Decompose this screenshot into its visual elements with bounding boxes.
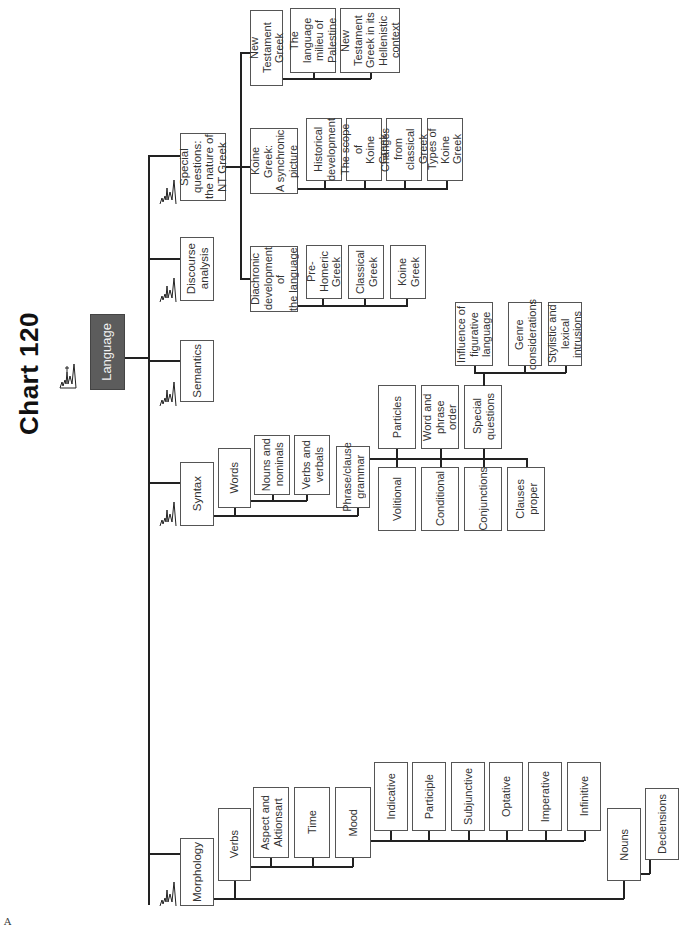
node-indicative: Indicative [374,762,408,831]
node-nouns: Nouns [607,808,641,881]
node-changes-classical: Changes from classical Greek [386,118,422,181]
connector [483,448,485,468]
node-nouns-nominals: Nouns and nominals [254,435,290,495]
connector [428,830,430,841]
connector [324,180,326,189]
node-subjunctive: Subjunctive [451,762,485,831]
node-label: Particles [391,396,404,438]
node-label: Pre-Homeric Greek [305,246,343,298]
connector [251,500,307,502]
node-label: Indicative [385,773,398,819]
node-label: Phrase/clause grammar [341,442,366,512]
connector [214,515,358,517]
connector [474,365,476,373]
node-words: Words [218,448,251,508]
node-label: Special questions: the nature of NT Gree… [178,134,228,200]
connector [352,857,354,867]
connector [148,482,180,484]
connector [364,180,366,189]
connector [234,508,236,516]
node-infinitive: Infinitive [567,762,601,831]
level1-spine [148,155,150,905]
node-label: Koine Greek [396,246,421,298]
connector [313,72,315,79]
node-historical-development: Historical development [306,118,342,181]
node-label: Participle [423,774,436,819]
connector [404,180,406,189]
node-particles: Particles [378,385,416,449]
connector [370,458,527,460]
connector [272,494,274,501]
node-scope-koine: The scope of Koine Greek [346,118,382,181]
connector [148,155,180,157]
connector [440,448,442,468]
connector [649,860,651,874]
node-label: The language milieu of Palestine [288,9,338,72]
node-types-koine: Types of Koine Greek [427,118,463,181]
node-label: Semantics [191,344,204,398]
node-label: Imperative [539,771,552,822]
node-label: Time [306,810,319,834]
node-discourse-analysis: Discourse analysis [180,237,214,301]
node-label: Diachronic development of the language [249,247,299,311]
node-label: Optative [500,776,513,817]
connector [390,830,392,841]
node-label: Declensions [656,794,669,854]
node-special-questions-syntax: Special questions [464,385,502,449]
node-word-phrase-order: Word and phrase order [421,385,459,449]
connector [483,372,485,386]
node-verbs: Verbs [218,808,251,881]
connector [371,840,584,842]
city-skyline-icon [158,872,178,908]
connector [406,298,408,306]
connector [306,494,308,501]
connector [234,880,236,899]
connector [148,258,180,260]
node-mood: Mood [335,787,371,858]
node-semantics: Semantics [180,340,214,402]
node-label: Stylistic and lexical intrusions [546,303,584,365]
node-phrase-clause: Phrase/clause grammar [336,446,370,508]
city-skyline-icon [158,372,178,408]
node-language-milieu: The language milieu of Palestine [290,8,336,73]
connector [148,853,180,855]
connector [474,372,566,374]
node-koine-greek: Koine Greek [390,245,426,299]
node-label: Word and phrase order [421,386,459,448]
node-stylistic-lexical: Stylistic and lexical intrusions [548,302,582,366]
node-label: Nouns [618,829,631,861]
node-syntax: Syntax [180,462,214,526]
node-label: Infinitive [578,776,591,816]
node-label: New Testament Greek in its Hellenistic c… [339,9,402,72]
city-skyline-icon [158,492,178,528]
node-label: Conditional [434,471,447,526]
node-label: Verbs [228,830,241,858]
node-label: Influence of figurative language [455,306,493,363]
connector [251,866,353,868]
root-node-language: Language [90,314,125,390]
node-clauses-proper: Clauses proper [507,467,545,531]
city-skyline-icon [58,354,78,390]
node-pre-homeric: Pre-Homeric Greek [306,245,342,299]
node-label: Aspect and Aktionsart [259,795,284,850]
connector [298,305,408,307]
connector [283,78,371,80]
node-volitional: Volitional [378,467,416,531]
node-label: Special questions [471,393,496,440]
node-label: Nouns and nominals [260,438,285,491]
node-figurative-language: Influence of figurative language [455,302,493,366]
connector [270,857,272,867]
node-morphology: Morphology [180,838,214,906]
connector [370,72,372,79]
city-skyline-icon [158,170,178,206]
node-nt-hellenistic: New Testament Greek in its Hellenistic c… [340,8,400,73]
node-label: Words [228,462,241,494]
node-conjunctions: Conjunctions [464,467,502,531]
node-label: Historical development [312,118,337,181]
city-skyline-icon [158,268,178,304]
connector [214,898,624,900]
node-label: Subjunctive [462,768,475,825]
connector [584,830,586,841]
node-nt-greek: New Testament Greek [250,10,283,86]
connector [396,448,398,468]
